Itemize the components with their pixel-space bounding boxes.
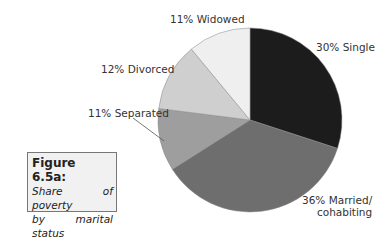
figure-caption-line: by marital status (32, 212, 113, 237)
label-married-line1: 36% Married/ (302, 194, 372, 206)
label-divorced: 12% Divorced (101, 63, 174, 75)
label-separated: 11% Separated (88, 107, 169, 119)
figure-caption-line: Share of poverty (32, 184, 113, 212)
label-married-line2: cohabiting (302, 206, 372, 218)
pie-slices (158, 28, 342, 212)
label-single: 30% Single (316, 41, 375, 53)
label-widowed: 11% Widowed (170, 13, 245, 25)
figure-caption-title: Figure 6.5a: (32, 156, 113, 184)
figure-caption-box: Figure 6.5a: Share of poverty by marital… (27, 152, 117, 212)
label-married: 36% Married/ cohabiting (302, 194, 372, 218)
